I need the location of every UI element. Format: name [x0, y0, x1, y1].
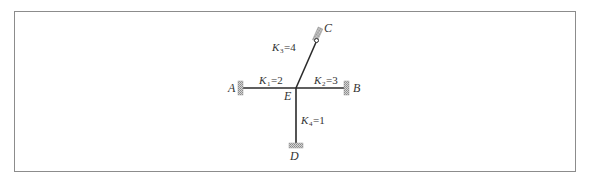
label-A: A: [227, 81, 236, 95]
label-B: B: [353, 81, 361, 95]
svg-text:=1: =1: [313, 114, 325, 126]
svg-text:K: K: [271, 41, 280, 53]
structure-diagram: A B C D E K 1 =2 K 2 =3 K 3 =4 K 4 =1: [0, 0, 589, 185]
svg-text:=2: =2: [271, 74, 283, 86]
svg-text:K: K: [300, 114, 309, 126]
stiffness-label-K3: K 3 =4: [271, 41, 296, 55]
support-C-pin-icon: [312, 27, 322, 43]
support-A-fixed-icon: [238, 81, 243, 95]
support-D-fixed-icon: [289, 143, 303, 148]
label-E: E: [283, 89, 292, 103]
label-C: C: [324, 21, 333, 35]
svg-text:K: K: [258, 74, 267, 86]
svg-text:K: K: [313, 74, 322, 86]
support-B-fixed-icon: [344, 81, 349, 95]
stiffness-label-K1: K 1 =2: [258, 74, 283, 88]
svg-text:=3: =3: [326, 74, 338, 86]
stiffness-label-K4: K 4 =1: [300, 114, 325, 128]
stiffness-label-K2: K 2 =3: [313, 74, 338, 88]
svg-text:=4: =4: [284, 41, 296, 53]
label-D: D: [289, 149, 299, 163]
